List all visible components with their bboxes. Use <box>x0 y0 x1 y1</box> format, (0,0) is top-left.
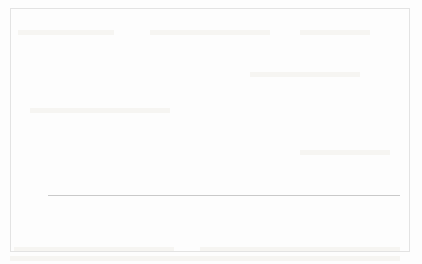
y-axis <box>6 16 44 196</box>
stacked-bar-chart <box>0 0 422 264</box>
scan-artifact <box>10 256 400 261</box>
x-axis <box>48 200 400 218</box>
plot-area <box>48 16 400 196</box>
chart-legend <box>10 224 410 242</box>
bars-layer <box>48 16 400 196</box>
